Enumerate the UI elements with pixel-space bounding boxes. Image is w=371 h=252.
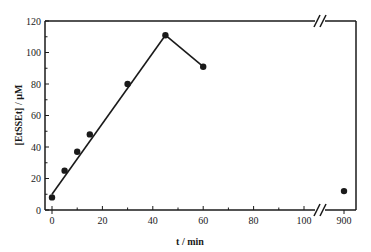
x-tick-label: 900 xyxy=(337,215,352,226)
y-tick-label: 120 xyxy=(26,16,41,27)
data-point xyxy=(341,188,347,194)
data-points xyxy=(49,32,347,201)
fit-line xyxy=(52,35,165,194)
x-tick-label: 100 xyxy=(297,215,312,226)
x-tick-label: 0 xyxy=(50,215,55,226)
data-point xyxy=(162,32,168,38)
x-tick-label: 40 xyxy=(148,215,158,226)
tick-labels: 020406080100120020406080100900 xyxy=(26,16,352,227)
x-axis-title: t / min xyxy=(176,236,204,247)
axis-break-marks xyxy=(314,15,326,216)
x-tick-label: 80 xyxy=(249,215,259,226)
data-point xyxy=(124,81,130,87)
y-tick-label: 80 xyxy=(31,79,41,90)
y-tick-label: 20 xyxy=(31,173,41,184)
data-point xyxy=(74,149,80,155)
y-axis-title: [EtSSEt] / µM xyxy=(13,84,24,145)
data-point xyxy=(200,63,206,69)
data-point xyxy=(61,167,67,173)
fit-line xyxy=(165,35,203,67)
y-tick-label: 60 xyxy=(31,110,41,121)
plot-frame xyxy=(45,21,356,210)
y-tick-label: 40 xyxy=(31,142,41,153)
axis-ticks xyxy=(45,21,344,214)
x-tick-label: 60 xyxy=(198,215,208,226)
y-tick-label: 0 xyxy=(36,205,41,216)
fit-lines xyxy=(52,35,203,194)
y-tick-label: 100 xyxy=(26,47,41,58)
x-tick-label: 20 xyxy=(97,215,107,226)
chart: 020406080100120020406080100900 t / min [… xyxy=(0,0,371,252)
data-point xyxy=(49,194,55,200)
data-point xyxy=(87,131,93,137)
